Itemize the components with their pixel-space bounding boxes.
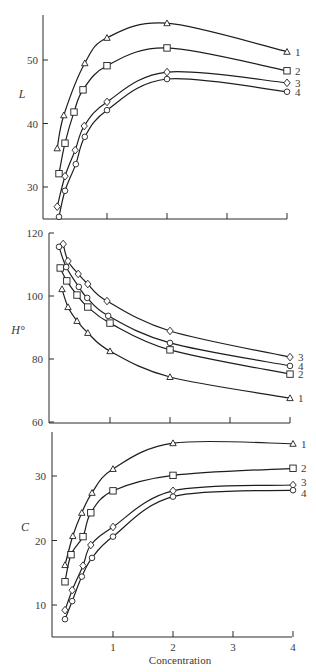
data-point-circle — [170, 494, 176, 500]
data-point-square — [110, 488, 116, 494]
series-label: 1 — [298, 392, 304, 404]
series-label: 4 — [301, 487, 307, 499]
series-line — [62, 289, 290, 398]
data-point-square — [56, 170, 62, 176]
data-point-triangle — [65, 304, 71, 310]
panel-h: H° 60801001201234 — [10, 227, 304, 428]
data-point-circle — [63, 264, 69, 270]
series-line — [65, 485, 293, 610]
series-label: 2 — [301, 462, 307, 474]
data-point-circle — [89, 555, 95, 561]
data-point-square — [167, 347, 173, 353]
series-1: 1 — [54, 20, 301, 151]
y-axis-label: H° — [10, 323, 25, 337]
series-line — [59, 247, 290, 366]
series-3: 3 — [54, 68, 301, 210]
data-point-circle — [82, 134, 88, 140]
data-point-circle — [287, 363, 293, 369]
data-point-square — [284, 68, 290, 74]
axes-frame — [52, 432, 292, 637]
y-tick-label: 30 — [27, 181, 39, 193]
data-point-square — [68, 551, 74, 557]
data-point-triangle — [82, 60, 88, 66]
series-1: 1 — [59, 286, 304, 404]
panel-c: C Concentration 12341020301234 — [21, 432, 307, 666]
data-point-triangle — [107, 348, 113, 354]
data-point-triangle — [59, 286, 65, 292]
series-3: 3 — [60, 240, 304, 363]
series-line — [65, 441, 293, 565]
y-tick-label: 80 — [32, 353, 44, 365]
data-point-square — [88, 510, 94, 516]
x-tick-label: 4 — [290, 641, 296, 653]
x-tick-label: 2 — [170, 641, 176, 653]
data-point-circle — [164, 76, 170, 82]
series-1: 1 — [62, 438, 307, 568]
series-line — [57, 72, 287, 207]
y-tick-label: 20 — [35, 535, 47, 547]
data-point-square — [107, 320, 113, 326]
data-point-square — [57, 265, 63, 271]
data-point-diamond — [54, 203, 60, 211]
series-2: 2 — [62, 462, 307, 585]
data-point-circle — [110, 534, 116, 540]
data-point-square — [170, 472, 176, 478]
y-tick-label: 40 — [27, 118, 39, 130]
data-point-circle — [290, 487, 296, 493]
series-2: 2 — [57, 265, 304, 380]
y-tick-label: 60 — [32, 416, 44, 428]
series-line — [63, 244, 290, 357]
data-point-circle — [56, 214, 62, 220]
figure: L 3040501234 H° 60801001201234 C Concent… — [0, 0, 316, 672]
data-point-circle — [62, 188, 68, 194]
data-point-square — [104, 63, 110, 69]
x-tick-label: 1 — [110, 641, 116, 653]
series-line — [59, 48, 287, 174]
data-point-square — [62, 579, 68, 585]
series-label: 1 — [295, 46, 301, 58]
data-point-diamond — [110, 523, 116, 531]
data-point-triangle — [79, 510, 85, 516]
y-tick-label: 10 — [35, 599, 47, 611]
data-point-square — [80, 87, 86, 93]
y-axis-label: C — [21, 520, 30, 534]
series-4: 4 — [62, 487, 307, 622]
data-point-circle — [73, 161, 79, 167]
data-point-diamond — [104, 98, 110, 106]
data-point-triangle — [110, 466, 116, 472]
data-point-diamond — [72, 146, 78, 154]
x-axis-label: Concentration — [149, 654, 212, 666]
data-point-circle — [105, 313, 111, 319]
data-point-circle — [62, 616, 68, 622]
series-label: 1 — [301, 438, 307, 450]
data-point-square — [85, 304, 91, 310]
data-point-triangle — [54, 145, 60, 151]
data-point-diamond — [164, 68, 170, 76]
series-label: 4 — [298, 360, 304, 372]
data-point-triangle — [61, 112, 67, 118]
data-point-square — [290, 465, 296, 471]
data-point-square — [74, 292, 80, 298]
y-tick-label: 50 — [27, 54, 39, 66]
panel-l: L 3040501234 — [18, 15, 301, 220]
data-point-circle — [104, 107, 110, 113]
data-point-square — [80, 533, 86, 539]
data-point-circle — [69, 598, 75, 604]
data-point-circle — [84, 295, 90, 301]
data-point-circle — [79, 574, 85, 580]
series-3: 3 — [62, 476, 307, 614]
data-point-square — [71, 109, 77, 115]
data-point-diamond — [167, 327, 173, 335]
series-2: 2 — [56, 45, 301, 177]
series-line — [65, 490, 293, 619]
series-line — [57, 23, 287, 148]
data-point-square — [64, 278, 70, 284]
data-point-diamond — [69, 586, 75, 594]
data-point-diamond — [284, 79, 290, 87]
series-4: 4 — [56, 76, 301, 219]
data-point-square — [287, 371, 293, 377]
data-point-diamond — [62, 172, 68, 180]
data-point-triangle — [104, 35, 110, 41]
data-point-square — [62, 140, 68, 146]
series-line — [60, 268, 290, 374]
